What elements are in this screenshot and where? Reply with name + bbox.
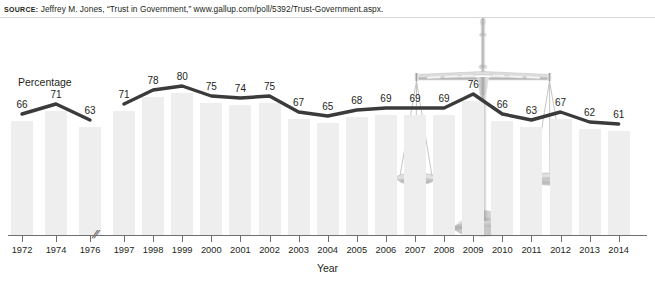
chart-figure: SOURCE: Jeffrey M. Jones, “Trust in Gove… bbox=[0, 0, 655, 287]
value-label: 67 bbox=[284, 97, 314, 108]
value-label: 71 bbox=[41, 89, 71, 100]
value-label: 61 bbox=[604, 109, 634, 120]
value-label: 63 bbox=[516, 105, 546, 116]
value-label: 66 bbox=[7, 99, 37, 110]
value-label: 78 bbox=[138, 75, 168, 86]
value-label: 69 bbox=[400, 93, 430, 104]
value-label: 75 bbox=[255, 81, 285, 92]
value-label: 62 bbox=[575, 107, 605, 118]
value-label: 69 bbox=[371, 93, 401, 104]
value-label: 80 bbox=[167, 71, 197, 82]
value-label: 67 bbox=[546, 97, 576, 108]
value-label: 65 bbox=[313, 101, 343, 112]
value-label: 74 bbox=[225, 83, 255, 94]
value-label: 76 bbox=[458, 79, 488, 90]
value-label: 68 bbox=[342, 95, 372, 106]
value-label: 75 bbox=[196, 81, 226, 92]
value-label: 66 bbox=[487, 99, 517, 110]
value-label: 63 bbox=[75, 105, 105, 116]
value-label: 71 bbox=[109, 89, 139, 100]
value-label: 69 bbox=[429, 93, 459, 104]
trend-line bbox=[0, 0, 655, 287]
y-axis-title: Percentage bbox=[18, 76, 72, 88]
x-axis-title: Year bbox=[0, 262, 655, 274]
